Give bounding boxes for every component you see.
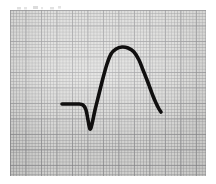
ecg-figure [0,0,216,184]
scan-artifact-marks [0,0,216,9]
paper-shading-overlay [10,10,206,176]
paper-edge-shadow [10,10,206,176]
ecg-graph-paper [10,10,206,176]
